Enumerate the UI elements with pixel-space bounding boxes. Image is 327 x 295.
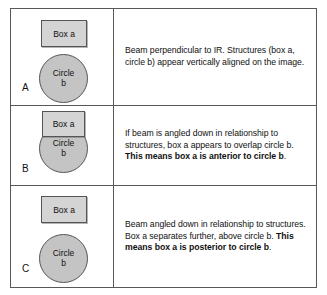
table-row: Box a Circle b A Beam perpendicular to I… bbox=[11, 9, 316, 106]
box-a-label: Box a bbox=[53, 29, 75, 39]
description-bold-b: This means box a is anterior to circle b bbox=[125, 151, 284, 161]
panel-label-c: C bbox=[22, 264, 29, 274]
circle-b-label-line2: b bbox=[61, 259, 66, 269]
description-normal-b-1: If beam is angled down in relationship t… bbox=[125, 128, 294, 150]
diagram-panel-a: Box a Circle b A bbox=[11, 9, 114, 105]
description-cell-c: Beam angled down in relationship to stru… bbox=[114, 186, 316, 287]
table-row: Box a Circle b C Beam angled down in rel… bbox=[11, 186, 316, 287]
comparison-figure-table: Box a Circle b A Beam perpendicular to I… bbox=[10, 8, 317, 288]
description-text-a: Beam perpendicular to IR. Structures (bo… bbox=[125, 45, 307, 68]
box-a-label: Box a bbox=[53, 205, 75, 215]
description-normal-b-2: . bbox=[284, 151, 286, 161]
panel-label-a: A bbox=[22, 83, 29, 93]
circle-b-label-line2: b bbox=[61, 149, 66, 159]
panel-label-b: B bbox=[22, 164, 29, 174]
diagram-panel-c: Box a Circle b C bbox=[11, 186, 114, 287]
circle-b-shape: Circle b bbox=[39, 234, 88, 283]
description-cell-a: Beam perpendicular to IR. Structures (bo… bbox=[114, 9, 316, 105]
box-a-label: Box a bbox=[53, 119, 75, 129]
box-a-shape: Box a bbox=[41, 20, 87, 47]
description-normal-a-1: Beam perpendicular to IR. Structures (bo… bbox=[125, 45, 304, 67]
diagram-panel-b: Circle b Box a B bbox=[11, 106, 114, 185]
description-cell-b: If beam is angled down in relationship t… bbox=[114, 106, 316, 185]
box-a-shape: Box a bbox=[41, 196, 87, 223]
circle-b-label-line2: b bbox=[61, 79, 66, 89]
box-a-shape: Box a bbox=[42, 111, 85, 137]
description-text-c: Beam angled down in relationship to stru… bbox=[125, 219, 307, 254]
description-normal-c-2: . bbox=[269, 242, 271, 252]
table-row: Circle b Box a B If beam is angled down … bbox=[11, 106, 316, 186]
circle-b-shape: Circle b bbox=[39, 54, 88, 103]
description-text-b: If beam is angled down in relationship t… bbox=[125, 128, 307, 163]
